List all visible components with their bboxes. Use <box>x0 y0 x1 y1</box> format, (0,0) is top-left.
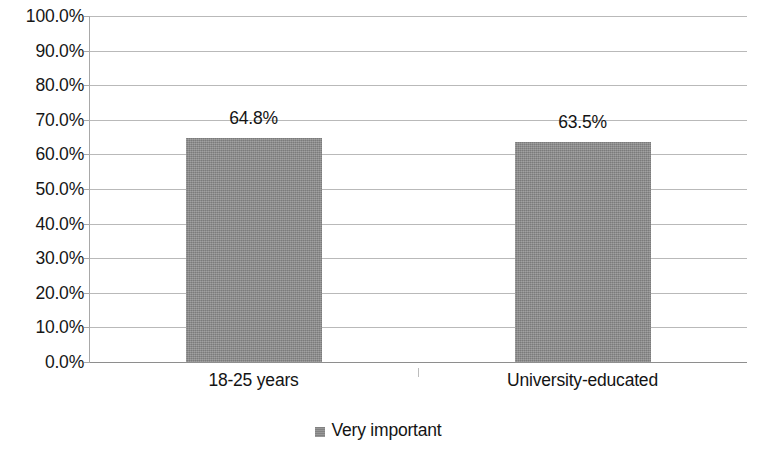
y-axis-tick-mark <box>84 327 90 328</box>
x-axis-tick-mark <box>418 368 419 377</box>
y-axis-tick-label: 10.0% <box>2 319 84 337</box>
y-axis-tick-label: 90.0% <box>2 43 84 61</box>
axis-baseline <box>89 362 747 363</box>
y-axis-tick-label: 0.0% <box>2 354 84 372</box>
y-axis-tick-label: 70.0% <box>2 112 84 130</box>
y-axis-tick-mark <box>84 258 90 259</box>
bar-value-label: 63.5% <box>515 114 651 132</box>
y-axis-tick-mark <box>84 85 90 86</box>
y-axis-tick-label: 20.0% <box>2 285 84 303</box>
gridline <box>89 51 747 52</box>
gridline <box>89 16 747 17</box>
y-axis-tick-label: 40.0% <box>2 216 84 234</box>
y-axis-tick-mark <box>84 120 90 121</box>
plot-area: 64.8%63.5% <box>89 16 747 362</box>
x-axis: 18-25 yearsUniversity-educated <box>89 368 747 398</box>
y-axis-tick-mark <box>84 189 90 190</box>
bar-chart: 64.8%63.5% 100.0%90.0%80.0%70.0%60.0%50.… <box>0 0 757 450</box>
y-axis-tick-mark <box>84 293 90 294</box>
legend-item-very-important: Very important <box>315 422 441 440</box>
x-axis-category-label: University-educated <box>418 372 747 390</box>
y-axis-tick-label: 60.0% <box>2 146 84 164</box>
bar-value-label: 64.8% <box>186 110 322 128</box>
chart-legend: Very important <box>0 422 757 440</box>
y-axis-tick-label: 100.0% <box>2 8 84 26</box>
y-axis-tick-mark <box>84 16 90 17</box>
bar <box>515 142 651 362</box>
legend-swatch-icon <box>315 427 325 437</box>
y-axis-tick-mark <box>84 154 90 155</box>
y-axis: 100.0%90.0%80.0%70.0%60.0%50.0%40.0%30.0… <box>0 16 84 362</box>
y-axis-tick-mark <box>84 51 90 52</box>
y-axis-tick-label: 30.0% <box>2 250 84 268</box>
y-axis-tick-mark <box>84 362 90 363</box>
y-axis-tick-mark <box>84 224 90 225</box>
bar <box>186 138 322 362</box>
gridline <box>89 85 747 86</box>
x-axis-category-label: 18-25 years <box>89 372 418 390</box>
y-axis-tick-label: 80.0% <box>2 77 84 95</box>
legend-item-label: Very important <box>331 422 441 440</box>
y-axis-tick-label: 50.0% <box>2 181 84 199</box>
